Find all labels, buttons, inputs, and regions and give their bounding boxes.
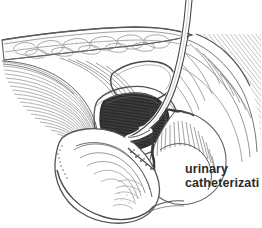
anatomy-illustration [0,0,262,228]
figure-root: urinary catheterizati [0,0,262,228]
